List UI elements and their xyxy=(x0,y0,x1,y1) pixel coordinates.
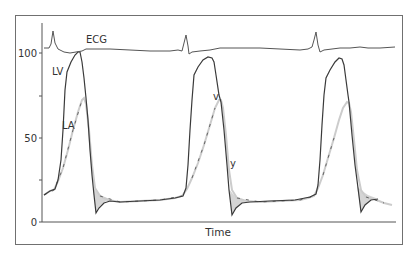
v-wave-label: v xyxy=(213,91,219,102)
y-descent-label: y xyxy=(230,158,236,169)
y-axis: 0 50 100 xyxy=(18,23,42,228)
x-axis-title: Time xyxy=(204,226,231,238)
y-tick-100: 100 xyxy=(18,48,37,59)
y-tick-50: 50 xyxy=(24,133,37,144)
la-label: LA xyxy=(62,120,75,131)
lv-label: LV xyxy=(52,66,63,77)
lv-pressure-trace xyxy=(44,52,378,215)
ecg-label: ECG xyxy=(86,34,107,45)
y-tick-0: 0 xyxy=(31,217,37,228)
x-axis: Time xyxy=(42,222,396,238)
pressure-chart: 0 50 100 Time ECG LV LA v y xyxy=(0,0,415,258)
la-pressure-trace xyxy=(44,98,392,205)
